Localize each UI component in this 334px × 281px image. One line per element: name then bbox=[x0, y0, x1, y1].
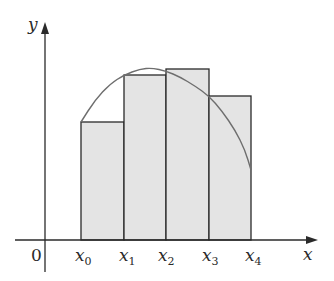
tick-subscript: 3 bbox=[212, 255, 219, 268]
tick-subscript: 1 bbox=[129, 255, 136, 268]
x-axis-arrow-icon bbox=[306, 236, 318, 244]
riemann-rectangle-2 bbox=[124, 75, 166, 240]
tick-label-x0: x0 bbox=[75, 247, 92, 267]
riemann-rectangle-1 bbox=[81, 122, 124, 240]
tick-label-x1: x1 bbox=[119, 247, 136, 267]
y-axis-label: y bbox=[28, 16, 38, 33]
tick-subscript: 4 bbox=[255, 255, 262, 268]
riemann-rectangles bbox=[81, 69, 251, 240]
tick-label-x3: x3 bbox=[202, 247, 219, 267]
tick-label-x2: x2 bbox=[158, 247, 175, 267]
tick-base: x bbox=[119, 245, 129, 265]
tick-base: x bbox=[75, 245, 85, 265]
diagram-canvas bbox=[0, 0, 334, 281]
tick-label-x4: x4 bbox=[245, 247, 262, 267]
riemann-sum-diagram: y x 0 x0 x1 x2 x3 x4 bbox=[0, 0, 334, 281]
y-axis-arrow-icon bbox=[41, 22, 49, 34]
origin-label: 0 bbox=[31, 247, 42, 264]
riemann-rectangle-3 bbox=[166, 69, 209, 240]
tick-subscript: 2 bbox=[168, 255, 175, 268]
x-axis-label: x bbox=[303, 246, 313, 263]
tick-base: x bbox=[245, 245, 255, 265]
tick-subscript: 0 bbox=[85, 255, 92, 268]
tick-base: x bbox=[202, 245, 212, 265]
tick-base: x bbox=[158, 245, 168, 265]
riemann-rectangle-4 bbox=[209, 96, 251, 240]
